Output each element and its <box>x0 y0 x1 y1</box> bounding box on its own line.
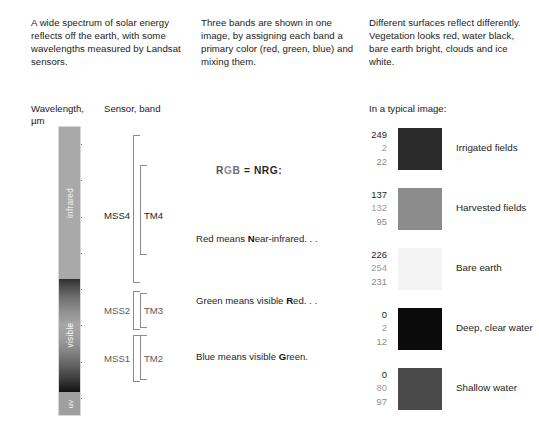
sensor-label-mss1: MSS1 <box>104 353 130 364</box>
rgb-value-r: 0 <box>355 308 387 321</box>
mapping-suffix: ed. . . <box>293 295 317 306</box>
spectrum-segment-uv: uv <box>59 392 80 416</box>
typical-image-header: In a typical image: <box>369 103 446 114</box>
rgb-value-g: 132 <box>355 201 387 214</box>
rgb-triplet: 0212 <box>355 308 387 348</box>
rgb-equation: RGB = NRG: <box>216 165 282 176</box>
spectrum-bar: infrared visible uv <box>58 126 81 416</box>
rgb-triplet: 13713295 <box>355 188 387 228</box>
rgb-value-b: 95 <box>355 215 387 228</box>
rgb-triplet: 226254231 <box>355 248 387 288</box>
swatch-label-bare-earth: Bare earth <box>456 262 502 273</box>
sensor-label-tm3: TM3 <box>144 305 163 316</box>
spectrum-label-visible: visible <box>65 323 74 348</box>
sample-row-deep-clear-water: 0212Deep, clear water <box>355 308 539 354</box>
rgb-value-g: 2 <box>355 141 387 154</box>
color-swatch-deep-clear-water <box>398 308 442 350</box>
wavelength-axis-header: Wavelength, µm <box>31 103 84 128</box>
swatch-label-shallow-water: Shallow water <box>456 382 517 393</box>
tm-bracket <box>133 291 140 330</box>
rgb-value-g: 80 <box>355 381 387 394</box>
sensor-label-mss4: MSS4 <box>104 210 130 221</box>
rgb-value-r: 137 <box>355 188 387 201</box>
mapping-suffix: ear-infrared. . . <box>255 233 318 244</box>
intro-paragraph-bands: Three bands are shown in one image, by a… <box>201 16 361 68</box>
mapping-prefix: Red means <box>196 233 248 244</box>
rgb-value-b: 12 <box>355 335 387 348</box>
color-swatch-bare-earth <box>398 248 442 290</box>
tm-bracket <box>133 135 140 283</box>
mapping-emphasis: G <box>279 351 286 362</box>
rgb-value-b: 22 <box>355 155 387 168</box>
rgb-value-g: 2 <box>355 321 387 334</box>
color-swatch-irrigated-fields <box>398 128 442 170</box>
band-mapping-line: Red means Near-infrared. . . <box>196 233 318 244</box>
intro-paragraph-spectrum: A wide spectrum of solar energy reflects… <box>31 16 181 68</box>
spectrum-label-uv: uv <box>65 400 74 409</box>
equation-rest: = NRG: <box>240 165 282 176</box>
rgb-value-r: 249 <box>355 128 387 141</box>
sample-row-bare-earth: 226254231Bare earth <box>355 248 539 294</box>
sensor-band-header: Sensor, band <box>104 103 161 115</box>
tm-bracket <box>133 335 140 382</box>
color-swatch-harvested-fields <box>398 188 442 230</box>
rgb-value-g: 254 <box>355 261 387 274</box>
mapping-prefix: Green means visible <box>196 295 286 306</box>
intro-paragraph-surfaces: Different surfaces reflect differently. … <box>369 16 534 68</box>
swatch-label-harvested-fields: Harvested fields <box>456 202 526 213</box>
rgb-value-r: 0 <box>355 368 387 381</box>
wavelength-header-line1: Wavelength, <box>31 103 84 115</box>
band-mapping-line: Green means visible Red. . . <box>196 295 317 306</box>
swatch-label-irrigated-fields: Irrigated fields <box>456 142 518 153</box>
sensor-label-mss2: MSS2 <box>104 305 130 316</box>
rgb-value-r: 226 <box>355 248 387 261</box>
spectrum-segment-visible: visible <box>59 279 80 392</box>
band-mapping-line: Blue means visible Green. <box>196 351 308 362</box>
mapping-prefix: Blue means visible <box>196 351 279 362</box>
sensor-label-tm2: TM2 <box>144 353 163 364</box>
spectrum-segment-infrared: infrared <box>59 127 80 279</box>
rgb-value-b: 231 <box>355 275 387 288</box>
equation-letter-r: R <box>216 165 224 176</box>
equation-letter-g: G <box>224 165 233 176</box>
sample-row-shallow-water: 08097Shallow water <box>355 368 539 414</box>
rgb-triplet: 249222 <box>355 128 387 168</box>
rgb-value-b: 97 <box>355 395 387 408</box>
sample-row-irrigated-fields: 249222Irrigated fields <box>355 128 539 174</box>
color-swatch-shallow-water <box>398 368 442 410</box>
sample-row-harvested-fields: 13713295Harvested fields <box>355 188 539 234</box>
sensor-label-tm4: TM4 <box>144 210 163 221</box>
rgb-triplet: 08097 <box>355 368 387 408</box>
spectrum-label-infrared: infrared <box>65 188 74 218</box>
swatch-label-deep-clear-water: Deep, clear water <box>456 322 533 333</box>
mapping-emphasis: N <box>248 233 255 244</box>
mapping-suffix: reen. <box>286 351 308 362</box>
